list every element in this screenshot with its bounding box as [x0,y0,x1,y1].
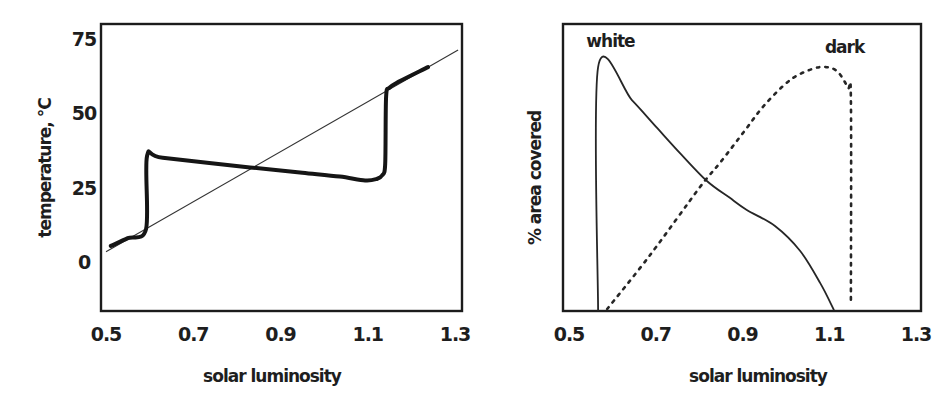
x-tick-label: 0.7 [640,323,671,345]
area-covered-chart: 0.50.70.91.11.3 whitedark solar luminosi… [525,24,931,386]
x-tick-label: 0.7 [178,323,209,345]
figure: 0.50.70.91.11.3 0255075 solar luminosity… [0,0,938,406]
temperature-chart: 0.50.70.91.11.3 0255075 solar luminosity… [35,24,470,386]
y-tick-label: 0 [78,251,91,273]
plot-frame [563,24,921,311]
x-tick-label: 1.3 [440,323,471,345]
series-white-line [596,57,834,311]
x-axis-label: solar luminosity [203,366,342,386]
x-tick-label: 1.1 [814,323,845,345]
x-tick-label: 0.5 [91,323,122,345]
annotation-white: white [586,31,635,51]
x-tick-label: 0.9 [727,323,758,345]
y-tick-label: 50 [72,102,97,124]
y-tick-label: 75 [72,28,96,50]
x-axis-label: solar luminosity [689,366,828,386]
x-tick-label: 0.5 [554,323,585,345]
plot-frame [101,24,462,311]
y-axis-label: temperature, °C [35,98,55,238]
annotation-dark: dark [825,37,866,57]
y-tick-label: 25 [72,177,96,199]
x-tick-label: 1.3 [901,323,932,345]
y-axis-label: % area covered [525,111,545,245]
x-tick-label: 0.9 [265,323,296,345]
x-tick-label: 1.1 [352,323,383,345]
